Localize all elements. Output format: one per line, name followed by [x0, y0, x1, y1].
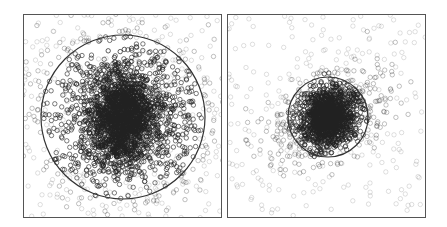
left-scatter-points	[0, 0, 245, 227]
right-scatter-points	[225, 13, 433, 218]
scatter-plots-canvas	[0, 0, 447, 227]
